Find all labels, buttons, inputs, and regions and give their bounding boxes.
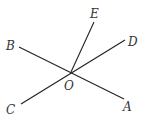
label-e: E <box>89 7 99 21</box>
label-a: A <box>122 100 132 114</box>
label-o: O <box>64 79 74 93</box>
line-cd <box>21 40 125 104</box>
label-b: B <box>5 39 15 53</box>
ray-oe <box>71 22 94 72</box>
geometry-diagram: E B D O C A <box>0 0 146 119</box>
label-c: C <box>6 103 15 117</box>
label-d: D <box>127 35 138 49</box>
